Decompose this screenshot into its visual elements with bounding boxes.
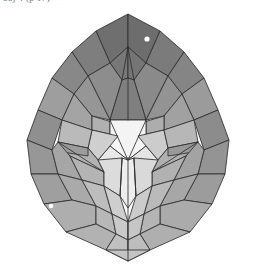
figure-page: obj 4 (p 17): [0, 0, 255, 272]
polyhedron-figure: [0, 0, 255, 272]
specular-highlight-upper-right: [144, 36, 149, 41]
specular-highlight-lower-left: [49, 204, 54, 209]
